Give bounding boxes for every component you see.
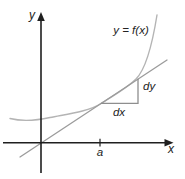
a-tick-label: a [97,146,103,158]
x-axis-label: x [167,142,175,156]
tangent-line-diagram: y x y = f(x) dy dx a [0,0,185,179]
y-axis-label: y [28,8,36,22]
dx-label: dx [113,106,126,118]
dy-label: dy [143,80,156,92]
curve-equation-label: y = f(x) [112,24,149,36]
y-axis-arrow-icon [37,12,45,21]
diagram-canvas: y x y = f(x) dy dx a [0,0,185,179]
